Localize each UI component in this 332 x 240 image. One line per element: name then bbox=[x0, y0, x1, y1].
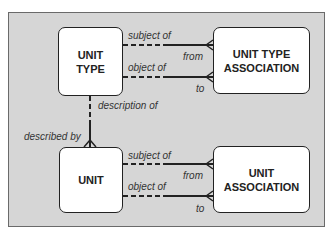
entity-unit-type: UNIT TYPE bbox=[58, 27, 123, 96]
crows-foot-icon bbox=[206, 72, 213, 82]
entity-label: ASSOCIATION bbox=[224, 180, 300, 194]
entity-unit-association: UNIT ASSOCIATION bbox=[213, 146, 310, 213]
label-bottom-object-of: object of bbox=[128, 181, 166, 192]
label-description-of: description of bbox=[98, 100, 157, 111]
entity-label: UNIT TYPE bbox=[224, 47, 300, 61]
crows-foot-icon bbox=[206, 159, 213, 169]
label-described-by: described by bbox=[24, 131, 81, 142]
label-bottom-subject-of: subject of bbox=[128, 150, 171, 161]
label-top-from: from bbox=[183, 51, 203, 62]
entity-label: UNIT bbox=[224, 166, 300, 180]
crows-foot-icon bbox=[206, 191, 213, 201]
label-top-to: to bbox=[196, 83, 204, 94]
label-bottom-from: from bbox=[183, 170, 203, 181]
entity-label: UNIT bbox=[76, 48, 105, 62]
entity-unit: UNIT bbox=[59, 147, 123, 213]
label-bottom-to: to bbox=[196, 203, 204, 214]
entity-label: TYPE bbox=[76, 62, 105, 76]
label-top-object-of: object of bbox=[128, 62, 166, 73]
label-top-subject-of: subject of bbox=[128, 30, 171, 41]
entity-label: UNIT bbox=[78, 173, 104, 187]
crows-foot-icon bbox=[206, 40, 213, 50]
entity-unit-type-association: UNIT TYPE ASSOCIATION bbox=[213, 27, 310, 94]
crows-foot-icon bbox=[84, 140, 96, 147]
entity-label: ASSOCIATION bbox=[224, 61, 300, 75]
